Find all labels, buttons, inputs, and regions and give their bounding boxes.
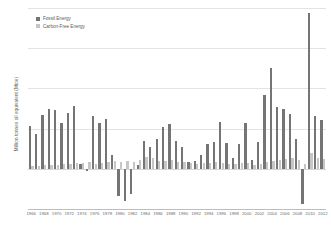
bar-clean-1996: [222, 163, 224, 169]
x-tick-label: 1984: [141, 211, 151, 216]
bar-clean-2009: [304, 164, 306, 169]
bar-clean-1992: [196, 164, 198, 169]
x-tick-label: 1974: [77, 211, 87, 216]
x-tick-label: 1976: [90, 211, 100, 216]
x-tick-label: 1970: [52, 211, 62, 216]
legend-label: Carbon-Free Energy: [43, 24, 85, 29]
bar-fossil-1981: [124, 169, 126, 201]
bar-clean-1975: [88, 162, 90, 168]
bar-clean-1981: [126, 161, 128, 169]
legend-swatch-icon: [36, 17, 40, 21]
chart-legend: Fossil EnergyCarbon-Free Energy: [36, 16, 85, 31]
bar-clean-2002: [260, 164, 262, 169]
bar-clean-1984: [145, 157, 147, 169]
bar-fossil-2009: [301, 169, 303, 205]
legend-label: Fossil Energy: [43, 16, 71, 21]
bar-fossil-1982: [130, 169, 132, 194]
bar-fossil-1980: [117, 169, 119, 197]
bar-clean-1980: [120, 162, 122, 169]
x-tick-label: 1998: [229, 211, 239, 216]
legend-item[interactable]: Carbon-Free Energy: [36, 24, 85, 29]
x-tick-label: 1968: [39, 211, 49, 216]
bar-fossil-1969: [48, 109, 50, 169]
x-tick-label: 1986: [153, 211, 163, 216]
bar-clean-1976: [95, 164, 97, 169]
bar-fossil-2010: [308, 13, 310, 169]
bar-clean-2007: [291, 158, 293, 169]
bar-fossil-1968: [41, 115, 43, 169]
bar-clean-1967: [38, 166, 40, 169]
bar-fossil-1971: [60, 123, 62, 169]
bar-clean-2006: [285, 159, 287, 169]
bar-clean-1978: [107, 162, 109, 169]
x-tick-label: 1996: [217, 211, 227, 216]
bar-series-container: [28, 8, 326, 209]
bar-clean-1983: [139, 160, 141, 169]
bar-clean-2003: [266, 162, 268, 169]
x-tick-label: 1972: [64, 211, 74, 216]
x-tick-label: 2012: [318, 211, 328, 216]
x-tick-label: 2002: [255, 211, 265, 216]
bar-fossil-1973: [73, 106, 75, 169]
bar-clean-1970: [57, 165, 59, 169]
bar-fossil-2003: [263, 95, 265, 169]
bar-clean-1991: [190, 163, 192, 169]
bar-clean-1989: [177, 162, 179, 169]
bar-clean-1972: [69, 164, 71, 169]
energy-change-bar-chart: Million tonnes oil equivalent (Mtoe) 700…: [0, 0, 331, 227]
bar-fossil-1967: [35, 134, 37, 168]
bar-clean-1974: [82, 163, 84, 169]
bar-clean-1986: [158, 161, 160, 169]
bar-clean-1995: [215, 162, 217, 168]
x-tick-label: 1988: [166, 211, 176, 216]
x-tick-label: 1966: [26, 211, 36, 216]
bar-clean-1994: [209, 163, 211, 169]
x-tick-label: 2008: [293, 211, 303, 216]
bar-fossil-1996: [219, 122, 221, 169]
legend-item[interactable]: Fossil Energy: [36, 16, 85, 21]
bar-clean-1988: [171, 160, 173, 169]
bar-clean-1966: [31, 166, 33, 169]
bar-clean-1998: [234, 164, 236, 169]
bar-fossil-1970: [54, 110, 56, 169]
bar-clean-1997: [228, 164, 230, 169]
x-tick-label: 1990: [179, 211, 189, 216]
bar-clean-2011: [317, 158, 319, 169]
bar-fossil-1966: [29, 126, 31, 169]
x-tick-label: 1994: [204, 211, 214, 216]
bar-clean-1979: [114, 161, 116, 169]
bar-clean-1990: [183, 162, 185, 168]
plot-area: 7005253501750-175: [28, 8, 326, 209]
bar-clean-1985: [152, 158, 154, 169]
bar-clean-1977: [101, 163, 103, 169]
x-tick-label: 1980: [115, 211, 125, 216]
bar-clean-2000: [247, 163, 249, 169]
x-tick-label: 2004: [267, 211, 277, 216]
y-axis-label: Million tonnes oil equivalent (Mtoe): [14, 54, 19, 174]
bar-clean-2008: [298, 160, 300, 169]
bar-fossil-1976: [92, 116, 94, 169]
bar-clean-1999: [241, 163, 243, 169]
bar-clean-1993: [203, 163, 205, 169]
bar-clean-2012: [323, 159, 325, 169]
bar-clean-2005: [279, 160, 281, 169]
x-tick-label: 2000: [242, 211, 252, 216]
bar-clean-2004: [272, 161, 274, 169]
bar-fossil-1972: [67, 113, 69, 169]
x-tick-label: 1978: [102, 211, 112, 216]
x-tick-label: 2006: [280, 211, 290, 216]
bar-fossil-1975: [86, 169, 88, 171]
bar-clean-1987: [164, 161, 166, 169]
x-tick-label: 1982: [128, 211, 138, 216]
x-tick-label: 1992: [191, 211, 201, 216]
bar-clean-1971: [63, 164, 65, 169]
bar-clean-1969: [50, 165, 52, 169]
bar-clean-1982: [133, 162, 135, 169]
bar-clean-2010: [310, 153, 312, 169]
bar-fossil-2004: [270, 68, 272, 169]
x-axis-line: [28, 209, 326, 210]
bar-clean-1973: [76, 163, 78, 169]
bar-clean-2001: [253, 165, 255, 169]
legend-swatch-icon: [36, 24, 40, 28]
bar-clean-1968: [44, 165, 46, 169]
